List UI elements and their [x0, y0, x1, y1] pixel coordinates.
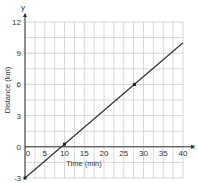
x-axis-name: x: [191, 142, 195, 151]
y-tick-label: 3: [17, 112, 22, 121]
x-tick-label: 5: [43, 149, 48, 158]
y-tick-label: 6: [17, 80, 22, 89]
y-tick-label: 12: [12, 18, 21, 27]
x-tick-label: 0: [26, 149, 31, 158]
data-point-marker: [133, 83, 136, 86]
x-tick-label: 10: [60, 149, 69, 158]
data-point-marker: [24, 177, 27, 180]
x-tick-label: 25: [119, 149, 128, 158]
x-tick-label: 35: [159, 149, 168, 158]
y-axis-name: y: [21, 3, 25, 12]
y-axis-label: Distance (km): [3, 66, 12, 113]
distance-time-chart: 0510152025303540-3036912 x y Time (min) …: [0, 0, 198, 183]
x-tick-label: 15: [80, 149, 89, 158]
y-tick-label: 9: [17, 49, 22, 58]
x-axis-label: Time (min): [66, 159, 102, 168]
x-tick-label: 40: [179, 149, 188, 158]
x-tick-label: 20: [100, 149, 109, 158]
y-tick-label: -3: [14, 174, 22, 183]
y-tick-label: 0: [17, 143, 22, 152]
x-tick-label: 30: [139, 149, 148, 158]
data-point-marker: [63, 143, 66, 146]
